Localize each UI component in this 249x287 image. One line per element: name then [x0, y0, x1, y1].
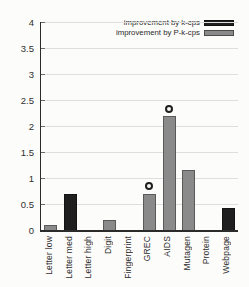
y-tick-label: 2.5: [2, 95, 34, 106]
bar-letter-med: [64, 194, 77, 230]
y-axis-tick: [41, 178, 45, 179]
y-tick-label: 1.5: [2, 147, 34, 158]
gridline: [41, 74, 238, 75]
x-category-label-aids: AIDS: [162, 236, 172, 257]
bar-digit: [103, 220, 116, 230]
x-category-label-mutagen: Mutagen: [182, 236, 192, 270]
y-axis-tick: [41, 22, 45, 23]
gridline: [41, 48, 238, 49]
open-circle-marker-grec: [145, 182, 153, 190]
bar-mutagen: [182, 170, 195, 230]
x-category-label-webpage: Webpage: [221, 236, 231, 274]
x-category-label-fingerprint: Fingerprint: [123, 236, 133, 279]
x-category-label-grec: GREC: [142, 236, 152, 261]
y-tick-label: 0: [2, 225, 34, 236]
y-tick-label: 3.5: [2, 43, 34, 54]
gridline: [41, 100, 238, 101]
y-axis-tick: [41, 126, 45, 127]
gridline: [41, 152, 238, 153]
y-tick-label: 4: [2, 17, 34, 28]
x-category-label-letter-med: Letter med: [64, 236, 74, 279]
open-circle-marker-aids: [165, 105, 173, 113]
y-tick-label: 0.5: [2, 199, 34, 210]
x-category-label-letter-high: Letter high: [83, 236, 93, 278]
y-axis-tick: [41, 74, 45, 75]
bar-aids: [163, 116, 176, 230]
plot-area: [40, 22, 238, 232]
bar-letter-low: [44, 225, 57, 230]
x-category-label-digit: Digit: [103, 236, 113, 254]
gridline: [41, 178, 238, 179]
x-category-label-protein: Protein: [201, 236, 211, 264]
x-category-label-letter-low: Letter low: [44, 236, 54, 275]
y-axis-tick: [41, 100, 45, 101]
bar-webpage: [222, 208, 235, 230]
y-tick-label: 1: [2, 173, 34, 184]
gridline: [41, 126, 238, 127]
bar-grec: [143, 194, 156, 230]
y-tick-label: 3: [2, 69, 34, 80]
y-axis-tick: [41, 152, 45, 153]
y-axis-tick: [41, 204, 45, 205]
gridline: [41, 22, 238, 23]
y-tick-label: 2: [2, 121, 34, 132]
chart-figure: improvement by k-cpsimprovement by P-k-c…: [0, 0, 249, 287]
y-axis-tick: [41, 48, 45, 49]
